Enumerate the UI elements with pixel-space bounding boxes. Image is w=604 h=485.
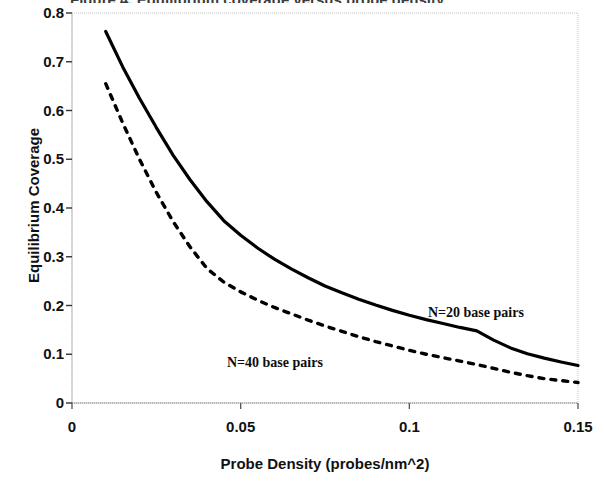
x-tick-label: 0.15 xyxy=(543,419,604,434)
y-tick-label: 0.1 xyxy=(22,346,64,361)
x-axis-title: Probe Density (probes/nm^2) xyxy=(72,455,578,472)
x-axis xyxy=(72,403,578,409)
y-axis-title: Equilibrium Coverage xyxy=(25,76,42,336)
y-axis xyxy=(66,13,72,403)
chart-figure: Figure 4. Equilibrium coverage versus pr… xyxy=(0,0,604,485)
y-tick-label: 0.8 xyxy=(22,5,64,20)
x-tick-label: 0 xyxy=(37,419,107,434)
x-tick-label: 0.1 xyxy=(374,419,444,434)
y-tick-label: 0 xyxy=(22,395,64,410)
x-tick-label: 0.05 xyxy=(206,419,276,434)
plot-area xyxy=(0,0,604,485)
series-annotation-n40: N=40 base pairs xyxy=(227,355,323,371)
y-tick-label: 0.7 xyxy=(22,54,64,69)
series-annotation-n20: N=20 base pairs xyxy=(428,305,524,321)
